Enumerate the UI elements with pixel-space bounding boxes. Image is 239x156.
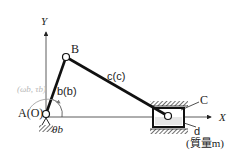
joint-c-label: C	[200, 93, 208, 107]
joint-a-label: A(O)	[18, 106, 43, 120]
angle-label-theta-b: θb	[52, 123, 63, 135]
slider-crank-diagram: Y X θb (ωb, τb) B A(O) b(b) c(c) C	[0, 0, 239, 156]
joint-b	[63, 54, 70, 61]
joint-c	[165, 113, 172, 120]
x-axis-label: X	[218, 111, 227, 123]
joint-b-label: B	[71, 42, 79, 56]
ground-support-a	[39, 118, 53, 132]
slider-guide-top	[150, 101, 188, 106]
input-label: (ωb, τb)	[17, 84, 46, 94]
joint-a	[43, 111, 50, 118]
link-b-label: b(b)	[57, 85, 77, 97]
x-axis: X	[46, 111, 227, 123]
mass-label: (質量m)	[186, 136, 224, 150]
link-c-label: c(c)	[107, 70, 125, 82]
y-axis-label: Y	[41, 15, 49, 27]
slider-guide-bottom	[150, 129, 188, 134]
link-d-label: d	[194, 125, 200, 137]
link-c	[66, 57, 168, 116]
